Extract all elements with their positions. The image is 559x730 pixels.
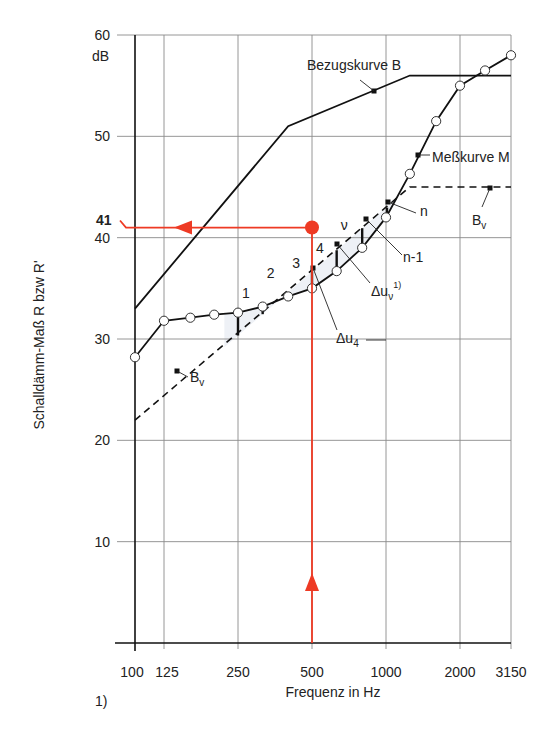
messkurve-point	[210, 310, 219, 319]
deficit-bar-label: 1	[242, 285, 250, 301]
curves	[130, 51, 515, 420]
sound-insulation-chart: 100125250500100020003150102030405060 123…	[0, 0, 559, 730]
deficit-bar-label: 4	[316, 240, 324, 256]
left-arrow-icon	[174, 221, 192, 235]
x-tick-label: 250	[226, 664, 250, 680]
messkurve-point	[480, 66, 489, 75]
result-horizontal-line	[120, 221, 312, 228]
x-tick-label: 100	[120, 664, 144, 680]
y-tick-label: 60	[94, 27, 110, 43]
y-tick-label: 40	[94, 230, 110, 246]
y-tick-label: 10	[94, 534, 110, 550]
messkurve-point	[233, 308, 242, 317]
messkurve-point	[159, 316, 168, 325]
bv-lower-leader	[177, 371, 188, 377]
footnote-marker: 1)	[95, 693, 107, 709]
axes	[115, 35, 511, 651]
messkurve-point	[130, 353, 139, 362]
delta-uv-label: Δuν1)	[371, 280, 401, 302]
x-axis-title: Frequenz in Hz	[286, 684, 381, 700]
x-tick-label: 1000	[370, 664, 401, 680]
messkurve-point	[455, 81, 464, 90]
x-tick-label: 125	[155, 664, 179, 680]
deficit-bar-label: 3	[292, 255, 300, 271]
result-point	[305, 221, 319, 235]
n-minus-1-label: n-1	[403, 249, 423, 265]
messkurve-point	[405, 169, 414, 178]
y-unit-label: dB	[92, 48, 109, 64]
result-value-label: 41	[96, 212, 112, 228]
y-tick-label: 50	[94, 128, 110, 144]
messkurve-point	[432, 117, 441, 126]
result-indicator	[120, 221, 319, 643]
messkurve-point	[284, 292, 293, 301]
y-axis-title: Schalldämm-Maß R bzw R'	[31, 260, 47, 429]
messkurve-point	[358, 243, 367, 252]
bezugskurve-leader	[360, 80, 374, 91]
delta-u4-label: Δu4	[336, 330, 359, 349]
messkurve-point	[506, 51, 515, 60]
messkurve-point	[186, 313, 195, 322]
bezugskurve-label: Bezugskurve B	[307, 57, 401, 73]
up-arrow-icon	[305, 573, 319, 591]
x-tick-label: 2000	[444, 664, 475, 680]
deficit-bar-label: 2	[267, 265, 275, 281]
messkurve-point	[381, 213, 390, 222]
bv-label-lower: Bv	[190, 369, 204, 388]
messkurve-point	[332, 267, 341, 276]
grid	[117, 35, 511, 649]
deficit-bar-label: ν	[341, 217, 348, 233]
x-tick-label: 3150	[495, 664, 526, 680]
x-tick-label: 500	[300, 664, 324, 680]
y-tick-label: 20	[94, 432, 110, 448]
messkurve-line	[135, 55, 511, 357]
messkurve-point	[258, 302, 267, 311]
n-label: n	[420, 203, 428, 219]
y-tick-label: 30	[94, 331, 110, 347]
messkurve-label: Meßkurve M	[432, 149, 510, 165]
bv-upper-leader	[482, 188, 490, 207]
bv-label-upper: Bv	[472, 212, 486, 231]
